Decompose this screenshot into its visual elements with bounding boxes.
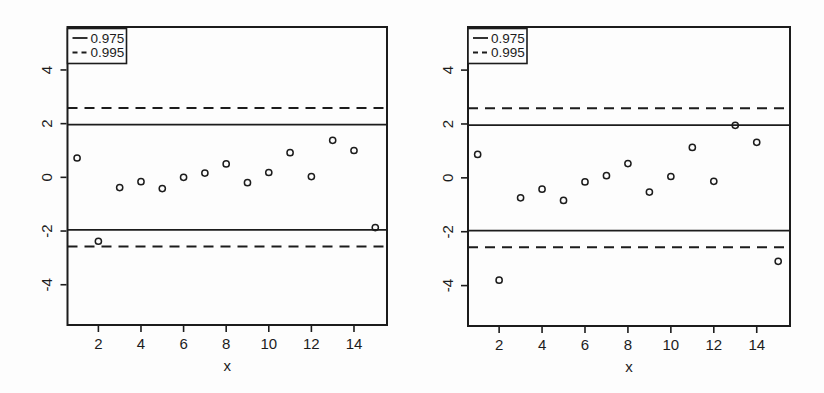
legend: 0.9750.995: [468, 29, 527, 64]
y-tick-label: -4: [439, 279, 456, 292]
y-tick-label: -4: [39, 278, 56, 291]
two-panel-figure: 2468101214-4-2024x0.9750.995 2468101214-…: [0, 0, 824, 393]
data-point: [625, 160, 631, 166]
data-point: [180, 174, 186, 180]
y-tick-label: 4: [439, 66, 456, 74]
x-tick-label: 4: [137, 335, 145, 352]
x-axis-label: x: [625, 358, 633, 375]
y-tick-label: -2: [39, 224, 56, 237]
x-tick-label: 8: [624, 336, 632, 353]
data-point: [603, 173, 609, 179]
data-point: [159, 186, 165, 192]
data-point: [95, 238, 101, 244]
data-point: [244, 180, 250, 186]
data-point: [754, 139, 760, 145]
data-point: [330, 137, 336, 143]
legend-label: 0.975: [91, 31, 125, 46]
x-tick-label: 2: [495, 336, 503, 353]
data-point: [560, 197, 566, 203]
x-tick-label: 6: [581, 336, 589, 353]
legend-label: 0.995: [491, 45, 525, 60]
plot-border: [68, 27, 388, 325]
legend-label: 0.975: [491, 31, 525, 46]
data-point: [517, 195, 523, 201]
y-tick-label: 0: [439, 174, 456, 182]
x-tick-label: 14: [346, 335, 363, 352]
left-plot: 2468101214-4-2024x0.9750.995: [39, 27, 388, 374]
y-tick-label: 2: [439, 120, 456, 128]
data-point: [351, 147, 357, 153]
data-point: [308, 173, 314, 179]
data-point: [74, 155, 80, 161]
data-point: [223, 161, 229, 167]
legend: 0.9750.995: [68, 29, 127, 64]
data-point: [202, 170, 208, 176]
data-point: [496, 277, 502, 283]
data-point: [775, 258, 781, 264]
x-tick-label: 8: [222, 335, 230, 352]
plot-border: [468, 27, 790, 326]
data-point: [711, 178, 717, 184]
data-point: [582, 179, 588, 185]
y-tick-label: 0: [39, 173, 56, 181]
data-point: [287, 150, 293, 156]
data-point: [117, 184, 123, 190]
x-tick-label: 14: [748, 336, 765, 353]
right-plot: 2468101214-4-2024x0.9750.995: [439, 27, 790, 375]
data-point: [138, 179, 144, 185]
x-axis-label: x: [224, 357, 232, 374]
data-point: [475, 151, 481, 157]
data-point: [689, 144, 695, 150]
x-tick-label: 10: [260, 335, 277, 352]
data-point: [668, 173, 674, 179]
y-tick-label: 4: [39, 66, 56, 74]
x-tick-label: 2: [94, 335, 102, 352]
y-tick-label: -2: [439, 225, 456, 238]
data-point: [266, 169, 272, 175]
y-tick-label: 2: [39, 119, 56, 127]
x-tick-label: 12: [705, 336, 722, 353]
figure-canvas: 2468101214-4-2024x0.9750.995 2468101214-…: [0, 0, 824, 393]
data-point: [539, 186, 545, 192]
x-tick-label: 10: [663, 336, 680, 353]
x-tick-label: 6: [179, 335, 187, 352]
x-tick-label: 4: [538, 336, 546, 353]
legend-label: 0.995: [91, 45, 125, 60]
x-tick-label: 12: [303, 335, 320, 352]
data-point: [646, 189, 652, 195]
